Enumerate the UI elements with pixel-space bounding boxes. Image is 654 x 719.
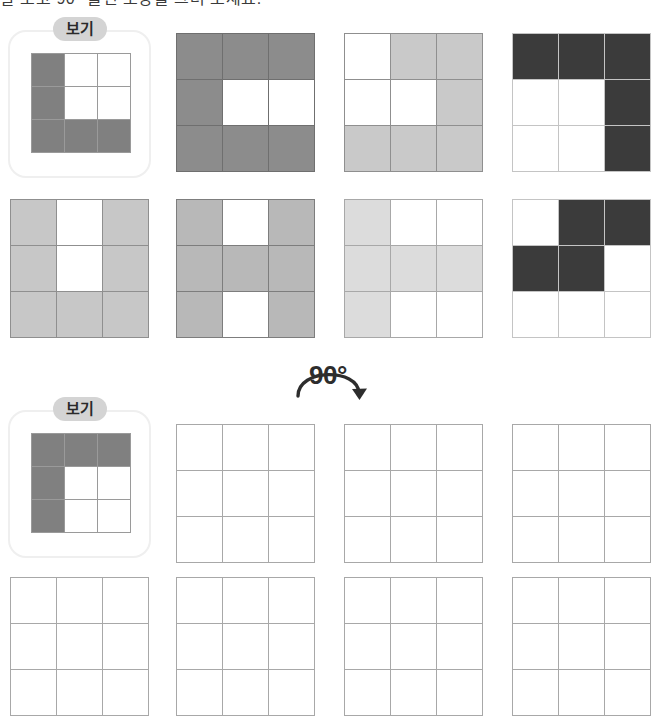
grid-cell-filled (436, 33, 483, 80)
grid-cell-empty[interactable] (176, 623, 223, 670)
grid-cell-filled (390, 125, 437, 172)
grid-cell-empty[interactable] (604, 669, 651, 716)
grid-cell-empty[interactable] (268, 516, 315, 563)
grid-cell-empty (97, 53, 131, 87)
grid-cell-empty[interactable] (268, 424, 315, 471)
grid-cell-empty[interactable] (390, 577, 437, 624)
grid-cell-empty[interactable] (390, 669, 437, 716)
grid-cell-empty[interactable] (344, 669, 391, 716)
grid-cell-empty[interactable] (102, 669, 149, 716)
grid-cell-empty[interactable] (10, 623, 57, 670)
grid-cell-empty[interactable] (176, 470, 223, 517)
grid-cell-filled (31, 499, 65, 533)
grid-cell-empty[interactable] (344, 516, 391, 563)
grid-cell-empty[interactable] (436, 669, 483, 716)
grid-cell-empty (56, 245, 103, 292)
answer-grid-6[interactable] (344, 577, 482, 715)
grid-cell-filled (31, 433, 65, 467)
answer-grid-3[interactable] (512, 424, 650, 562)
grid-cell-empty[interactable] (268, 470, 315, 517)
grid-cell-empty[interactable] (56, 669, 103, 716)
grid-cell-empty[interactable] (558, 516, 605, 563)
grid-cell-filled (97, 433, 131, 467)
grid-cell-filled (31, 466, 65, 500)
grid-cell-empty[interactable] (102, 577, 149, 624)
grid-cell-filled (268, 291, 315, 338)
grid-cell-empty[interactable] (604, 516, 651, 563)
grid-cell-empty[interactable] (604, 623, 651, 670)
grid-cell-empty[interactable] (344, 577, 391, 624)
grid-cell-empty[interactable] (436, 424, 483, 471)
grid-cell-empty[interactable] (268, 577, 315, 624)
grid-cell-empty[interactable] (512, 623, 559, 670)
grid-cell-empty[interactable] (176, 577, 223, 624)
grid-cell-empty (344, 79, 391, 126)
grid-cell-empty[interactable] (344, 424, 391, 471)
grid-cell-empty[interactable] (10, 669, 57, 716)
answer-grid-1[interactable] (176, 424, 314, 562)
grid-cell-empty[interactable] (222, 424, 269, 471)
grid-cell-empty[interactable] (390, 623, 437, 670)
grid-cell-empty[interactable] (56, 623, 103, 670)
grid-cell-empty[interactable] (222, 516, 269, 563)
grid-cell-empty[interactable] (176, 669, 223, 716)
grid-cell-empty[interactable] (176, 516, 223, 563)
example-badge-bottom: 보기 (53, 397, 107, 421)
grid-cell-empty (512, 79, 559, 126)
grid-cell-empty[interactable] (222, 470, 269, 517)
grid-cell-empty[interactable] (512, 470, 559, 517)
rotation-degrees-label: 90° (258, 360, 398, 391)
grid-cell-filled (10, 291, 57, 338)
grid-cell-filled (604, 199, 651, 246)
grid-cell-empty[interactable] (512, 577, 559, 624)
grid-cell-empty[interactable] (436, 623, 483, 670)
grid-cell-filled (390, 245, 437, 292)
grid-cell-filled (176, 125, 223, 172)
grid-cell-empty[interactable] (10, 577, 57, 624)
grid-cell-empty[interactable] (268, 669, 315, 716)
grid-cell-empty[interactable] (604, 470, 651, 517)
grid-cell-empty[interactable] (604, 577, 651, 624)
grid-cell-empty[interactable] (512, 669, 559, 716)
grid-cell-empty (558, 291, 605, 338)
grid-cell-empty[interactable] (390, 516, 437, 563)
grid-cell-empty[interactable] (436, 516, 483, 563)
grid-cell-empty (344, 33, 391, 80)
grid-cell-filled (344, 199, 391, 246)
grid-cell-empty[interactable] (56, 577, 103, 624)
grid-cell-empty[interactable] (344, 470, 391, 517)
answer-grid-5[interactable] (176, 577, 314, 715)
grid-cell-empty[interactable] (512, 516, 559, 563)
grid-cell-filled (222, 33, 269, 80)
grid-cell-empty[interactable] (176, 424, 223, 471)
grid-cell-empty[interactable] (604, 424, 651, 471)
grid-cell-empty[interactable] (222, 577, 269, 624)
grid-cell-empty[interactable] (268, 623, 315, 670)
grid-cell-empty[interactable] (436, 470, 483, 517)
answer-grid-4[interactable] (10, 577, 148, 715)
grid-cell-empty[interactable] (222, 623, 269, 670)
grid-cell-empty (558, 79, 605, 126)
example-badge-top: 보기 (53, 17, 107, 41)
grid-cell-empty[interactable] (558, 470, 605, 517)
answer-grid-2[interactable] (344, 424, 482, 562)
grid-cell-empty[interactable] (390, 424, 437, 471)
grid-cell-empty[interactable] (558, 623, 605, 670)
grid-cell-empty[interactable] (512, 424, 559, 471)
grid-cell-empty[interactable] (558, 424, 605, 471)
grid-cell-empty[interactable] (344, 623, 391, 670)
grid-cell-filled (604, 125, 651, 172)
grid-cell-empty[interactable] (390, 470, 437, 517)
answer-grid-7[interactable] (512, 577, 650, 715)
grid-cell-empty (64, 499, 98, 533)
grid-cell-empty[interactable] (436, 577, 483, 624)
grid-cell-empty[interactable] (102, 623, 149, 670)
grid-cell-filled (56, 291, 103, 338)
grid-cell-empty[interactable] (558, 669, 605, 716)
grid-cell-empty[interactable] (558, 577, 605, 624)
grid-cell-filled (390, 33, 437, 80)
grid-cell-empty[interactable] (222, 669, 269, 716)
grid-cell-filled (436, 125, 483, 172)
grid-cell-empty (604, 245, 651, 292)
grid-cell-filled (604, 79, 651, 126)
